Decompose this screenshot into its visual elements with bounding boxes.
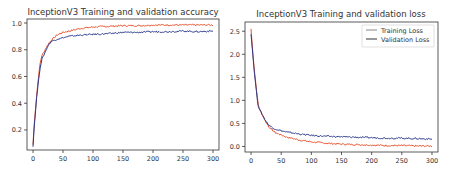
y-tick-label: 0.4 (12, 100, 22, 108)
x-tick-label: 200 (365, 157, 377, 165)
accuracy-validation-line (33, 30, 213, 146)
y-tick-label: 1.0 (12, 20, 22, 28)
loss-x-axis: 050100150200250300 (249, 152, 438, 165)
x-tick-label: 150 (335, 157, 347, 165)
y-tick-label: 0.0 (230, 143, 240, 151)
accuracy-chart-panel: InceptionV3 Training and validation accu… (0, 0, 225, 172)
y-tick-label: 2.5 (230, 28, 240, 36)
x-tick-label: 50 (59, 155, 67, 163)
x-tick-label: 300 (426, 157, 438, 165)
y-tick-label: 1.5 (230, 74, 240, 82)
y-tick-label: 2.0 (230, 51, 240, 59)
y-tick-label: 0.6 (12, 73, 22, 81)
accuracy-chart-title: InceptionV3 Training and validation accu… (27, 7, 218, 17)
loss-y-axis: 0.00.51.01.52.02.5 (230, 28, 245, 151)
accuracy-training-line (33, 24, 213, 145)
legend-training-label: Training Loss (380, 27, 424, 35)
legend-validation-label: Validation Loss (381, 36, 430, 44)
x-tick-label: 250 (396, 157, 408, 165)
y-tick-label: 0.5 (230, 120, 240, 128)
x-tick-label: 0 (31, 155, 35, 163)
x-tick-label: 300 (207, 155, 219, 163)
y-tick-label: 0.8 (12, 46, 22, 54)
accuracy-x-axis: 050100150200250300 (31, 150, 219, 163)
accuracy-plot-area (27, 19, 219, 150)
x-tick-label: 250 (177, 155, 189, 163)
loss-chart-title: InceptionV3 Training and validation loss (256, 9, 426, 19)
accuracy-y-axis: 0.20.40.60.81.0 (12, 20, 27, 135)
x-tick-label: 200 (147, 155, 159, 163)
x-tick-label: 50 (277, 157, 285, 165)
accuracy-chart: InceptionV3 Training and validation accu… (0, 0, 225, 172)
loss-validation-line (251, 34, 432, 139)
x-tick-label: 0 (249, 157, 253, 165)
y-tick-label: 1.0 (230, 97, 240, 105)
y-tick-label: 0.2 (12, 126, 22, 134)
loss-legend: Training Loss Validation Loss (362, 25, 434, 47)
loss-chart-panel: InceptionV3 Training and validation loss… (225, 0, 451, 172)
loss-chart: InceptionV3 Training and validation loss… (225, 0, 451, 172)
x-tick-label: 100 (87, 155, 99, 163)
x-tick-label: 100 (305, 157, 317, 165)
x-tick-label: 150 (117, 155, 129, 163)
